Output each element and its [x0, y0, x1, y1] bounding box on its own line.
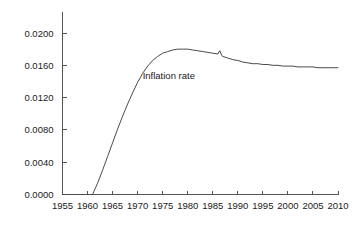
- inflation-rate-curve: [63, 49, 339, 194]
- y-tick-label: 0.0160: [24, 60, 53, 71]
- x-tick-label: 2005: [302, 200, 323, 211]
- y-tick-label: 0.0200: [24, 28, 53, 39]
- x-tick-label: 1990: [227, 200, 248, 211]
- plot-area: [63, 49, 339, 194]
- y-tick-group: [63, 33, 67, 195]
- x-axis: 1955196019651970197519801985199019952000…: [52, 191, 349, 211]
- chart-screenshot: 0.00000.00400.00800.01200.01600.0200 195…: [0, 0, 359, 235]
- inflation-rate-line-chart: 0.00000.00400.00800.01200.01600.0200 195…: [0, 0, 359, 235]
- x-tick-label: 2010: [327, 200, 348, 211]
- y-tick-label: 0.0040: [24, 157, 53, 168]
- x-tick-label: 1965: [102, 200, 123, 211]
- x-tick-label: 1980: [177, 200, 198, 211]
- x-tick-label: 1960: [77, 200, 98, 211]
- x-tick-label: 1975: [152, 200, 173, 211]
- y-axis: 0.00000.00400.00800.01200.01600.0200: [24, 12, 66, 200]
- x-tick-label: 1995: [252, 200, 273, 211]
- y-tick-label: 0.0000: [24, 189, 53, 200]
- x-tick-label: 1970: [127, 200, 148, 211]
- x-tick-label: 1955: [52, 200, 73, 211]
- x-tick-label: 2000: [277, 200, 298, 211]
- x-tick-label-group: 1955196019651970197519801985199019952000…: [52, 200, 349, 211]
- y-tick-label: 0.0080: [24, 124, 53, 135]
- annotation-group: Inflation rate: [143, 70, 195, 81]
- x-tick-group: [63, 191, 339, 195]
- y-tick-label: 0.0120: [24, 92, 53, 103]
- y-tick-label-group: 0.00000.00400.00800.01200.01600.0200: [24, 28, 53, 201]
- chart-annotation-label: Inflation rate: [143, 70, 195, 81]
- x-tick-label: 1985: [202, 200, 223, 211]
